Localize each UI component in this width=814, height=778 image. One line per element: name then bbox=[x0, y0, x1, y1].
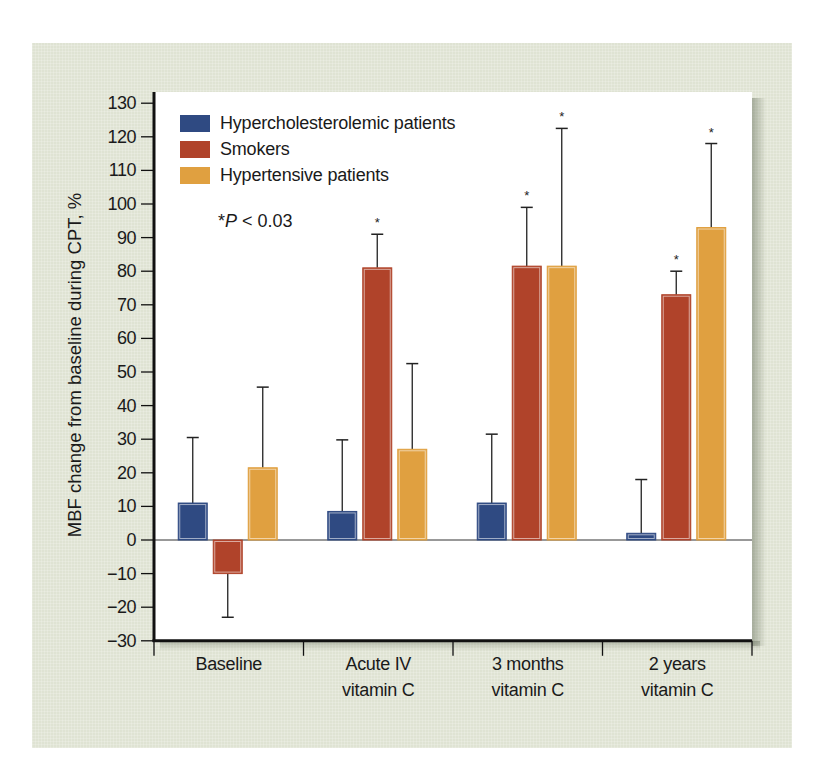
significance-star: * bbox=[554, 111, 570, 123]
bar-smokers-1 bbox=[363, 268, 392, 540]
y-tick-label: 100 bbox=[92, 195, 136, 213]
y-tick-label: 40 bbox=[92, 397, 136, 415]
bar-smokers-0 bbox=[213, 540, 242, 574]
figure: MBF change from baseline during CPT, % 1… bbox=[0, 0, 814, 778]
y-tick-label: 130 bbox=[92, 94, 136, 112]
significance-star: * bbox=[668, 254, 684, 266]
y-tick-label: 120 bbox=[92, 128, 136, 146]
x-category-label-line: 2 years bbox=[602, 651, 752, 677]
y-tick-label: −20 bbox=[92, 598, 136, 616]
p-value-note: *P < 0.03 bbox=[218, 211, 293, 232]
legend-label: Hypertensive patients bbox=[220, 165, 389, 186]
x-category-label-line: Baseline bbox=[154, 651, 304, 677]
y-tick-label: 60 bbox=[92, 329, 136, 347]
bar-hypertensive-0 bbox=[248, 468, 277, 540]
y-tick-label: −10 bbox=[92, 565, 136, 583]
x-category-label: 2 yearsvitamin C bbox=[602, 651, 752, 703]
bar-hypertensive-1 bbox=[398, 449, 427, 540]
p-note-star: * bbox=[218, 211, 225, 231]
y-tick-label: 30 bbox=[92, 430, 136, 448]
legend-swatch-blue bbox=[180, 115, 210, 132]
x-category-label-line: Acute IV bbox=[303, 651, 453, 677]
significance-star: * bbox=[369, 217, 385, 229]
x-category-label: Acute IVvitamin C bbox=[303, 651, 453, 703]
y-tick-label: 50 bbox=[92, 363, 136, 381]
significance-star: * bbox=[703, 127, 719, 139]
legend-item-smokers: Smokers bbox=[180, 136, 455, 162]
y-tick-label: 90 bbox=[92, 229, 136, 247]
y-tick-label: 20 bbox=[92, 464, 136, 482]
x-category-label-line: vitamin C bbox=[602, 677, 752, 703]
bar-hypertensive-2 bbox=[547, 266, 576, 540]
x-category-label-line: 3 months bbox=[453, 651, 603, 677]
legend-label: Smokers bbox=[220, 139, 290, 160]
y-tick-label: 70 bbox=[92, 296, 136, 314]
y-tick-label: 0 bbox=[92, 531, 136, 549]
bar-hypercholesterolemic-0 bbox=[178, 503, 207, 540]
x-category-label-line: vitamin C bbox=[303, 677, 453, 703]
y-tick-label: 10 bbox=[92, 497, 136, 515]
bar-hypercholesterolemic-2 bbox=[477, 503, 506, 540]
x-category-label: Baseline bbox=[154, 651, 304, 677]
x-category-label-line: vitamin C bbox=[453, 677, 603, 703]
legend-item-hypercholesterolemic: Hypercholesterolemic patients bbox=[180, 110, 455, 136]
bar-hypercholesterolemic-1 bbox=[328, 511, 357, 540]
bar-hypertensive-3 bbox=[697, 228, 726, 540]
legend-swatch-orange bbox=[180, 167, 210, 184]
legend-swatch-red bbox=[180, 141, 210, 158]
p-note-letter: P bbox=[225, 211, 237, 231]
significance-star: * bbox=[519, 190, 535, 202]
legend-label: Hypercholesterolemic patients bbox=[220, 113, 455, 134]
bar-smokers-2 bbox=[512, 266, 541, 540]
y-tick-label: 110 bbox=[92, 161, 136, 179]
legend: Hypercholesterolemic patients Smokers Hy… bbox=[180, 110, 455, 188]
legend-item-hypertensive: Hypertensive patients bbox=[180, 162, 455, 188]
y-axis-title: MBF change from baseline during CPT, % bbox=[64, 193, 86, 537]
p-note-value: < 0.03 bbox=[237, 211, 293, 231]
y-tick-label: −30 bbox=[92, 632, 136, 650]
x-category-label: 3 monthsvitamin C bbox=[453, 651, 603, 703]
bar-smokers-3 bbox=[662, 295, 691, 540]
y-tick-label: 80 bbox=[92, 262, 136, 280]
